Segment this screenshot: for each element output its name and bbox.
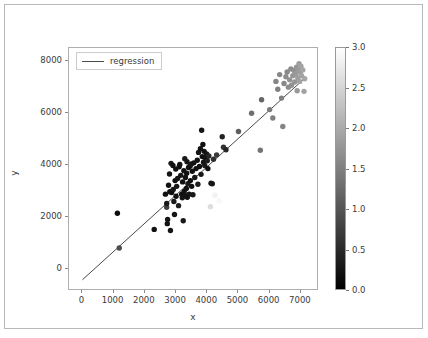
x-axis-label: x bbox=[68, 312, 318, 322]
x-tickmark bbox=[81, 290, 82, 293]
scatter-point bbox=[300, 67, 305, 72]
scatter-point bbox=[117, 245, 122, 250]
x-tick-label: 6000 bbox=[258, 295, 280, 305]
scatter-point bbox=[184, 171, 189, 176]
colorbar-tickmark bbox=[346, 47, 349, 48]
scatter-point bbox=[280, 124, 285, 129]
scatter-point bbox=[184, 186, 189, 191]
y-axis-label: y bbox=[9, 170, 19, 175]
colorbar-tick-label: 3.0 bbox=[352, 42, 366, 52]
scatter-point bbox=[171, 199, 176, 204]
scatter-plot-axes bbox=[68, 47, 318, 290]
legend: regression bbox=[76, 52, 162, 70]
scatter-point bbox=[206, 153, 211, 158]
scatter-point bbox=[249, 111, 254, 116]
x-tick-label: 2000 bbox=[133, 295, 155, 305]
scatter-point bbox=[273, 79, 278, 84]
y-tick-label: 2000 bbox=[20, 211, 62, 221]
legend-label-regression: regression bbox=[110, 56, 154, 66]
x-tickmark bbox=[175, 290, 176, 293]
scatter-point bbox=[115, 211, 120, 216]
scatter-point bbox=[258, 148, 263, 153]
colorbar-tickmark bbox=[346, 128, 349, 129]
figure-canvas: 0100020003000400050006000700002000400060… bbox=[0, 0, 428, 338]
scatter-point bbox=[173, 194, 178, 199]
scatter-point bbox=[236, 129, 241, 134]
scatter-point bbox=[279, 95, 284, 100]
scatter-point bbox=[166, 183, 171, 188]
scatter-point bbox=[294, 88, 299, 93]
scatter-point bbox=[188, 178, 193, 183]
scatter-point bbox=[165, 217, 170, 222]
scatter-point bbox=[259, 97, 264, 102]
scatter-point bbox=[275, 87, 280, 92]
scatter-point bbox=[192, 175, 197, 180]
scatter-point bbox=[281, 81, 286, 86]
y-tickmark bbox=[65, 268, 68, 269]
scatter-point bbox=[181, 218, 186, 223]
colorbar-tick-label: 1.5 bbox=[352, 164, 366, 174]
x-tickmark bbox=[300, 290, 301, 293]
scatter-point bbox=[297, 79, 302, 84]
scatter-point bbox=[180, 179, 185, 184]
x-tickmark bbox=[113, 290, 114, 293]
x-tick-label: 5000 bbox=[227, 295, 249, 305]
scatter-point bbox=[223, 147, 228, 152]
scatter-point bbox=[208, 204, 213, 209]
colorbar-tickmark bbox=[346, 169, 349, 170]
scatter-point bbox=[212, 193, 217, 198]
scatter-point bbox=[189, 184, 194, 189]
scatter-point bbox=[198, 172, 203, 177]
scatter-point bbox=[302, 76, 307, 81]
colorbar-tick-label: 2.5 bbox=[352, 83, 366, 93]
y-tick-label: 4000 bbox=[20, 159, 62, 169]
scatter-point bbox=[195, 182, 200, 187]
scatter-point bbox=[172, 212, 177, 217]
colorbar-tickmark bbox=[346, 88, 349, 89]
scatter-point bbox=[197, 164, 202, 169]
y-tickmark bbox=[65, 216, 68, 217]
scatter-point bbox=[205, 158, 210, 163]
scatter-point bbox=[214, 152, 219, 157]
x-tick-label: 4000 bbox=[195, 295, 217, 305]
y-tick-label: 0 bbox=[20, 263, 62, 273]
colorbar-tickmark bbox=[346, 209, 349, 210]
x-tickmark bbox=[237, 290, 238, 293]
scatter-point bbox=[210, 181, 215, 186]
scatter-point bbox=[195, 158, 200, 163]
scatter-point bbox=[164, 201, 169, 206]
x-tickmark bbox=[144, 290, 145, 293]
y-tickmark bbox=[65, 112, 68, 113]
y-tick-label: 6000 bbox=[20, 107, 62, 117]
scatter-point bbox=[301, 89, 306, 94]
scatter-point bbox=[216, 198, 221, 203]
scatter-point bbox=[177, 162, 182, 167]
scatter-point bbox=[220, 134, 225, 139]
x-tickmark bbox=[269, 290, 270, 293]
legend-line-swatch bbox=[82, 61, 104, 62]
scatter-point bbox=[270, 115, 275, 120]
x-tickmark bbox=[206, 290, 207, 293]
colorbar-tickmark bbox=[346, 290, 349, 291]
scatter-point bbox=[200, 142, 205, 147]
scatter-point bbox=[205, 166, 210, 171]
scatter-point bbox=[167, 171, 172, 176]
scatter-point bbox=[174, 184, 179, 189]
scatter-point bbox=[176, 203, 181, 208]
scatter-point bbox=[277, 72, 282, 77]
colorbar: 0.00.51.01.52.02.53.0 bbox=[335, 47, 346, 290]
colorbar-tickmark bbox=[346, 250, 349, 251]
x-tick-label: 7000 bbox=[289, 295, 311, 305]
x-tick-label: 1000 bbox=[102, 295, 124, 305]
y-tickmark bbox=[65, 60, 68, 61]
plot-svg bbox=[69, 48, 318, 290]
colorbar-tick-label: 1.0 bbox=[352, 204, 366, 214]
scatter-point bbox=[267, 107, 272, 112]
scatter-point bbox=[190, 192, 195, 197]
y-tickmark bbox=[65, 164, 68, 165]
colorbar-gradient-strip bbox=[335, 47, 346, 290]
colorbar-tick-label: 2.0 bbox=[352, 123, 366, 133]
y-tick-label: 8000 bbox=[20, 55, 62, 65]
colorbar-tick-label: 0.0 bbox=[352, 285, 366, 295]
x-tick-label: 0 bbox=[79, 295, 84, 305]
